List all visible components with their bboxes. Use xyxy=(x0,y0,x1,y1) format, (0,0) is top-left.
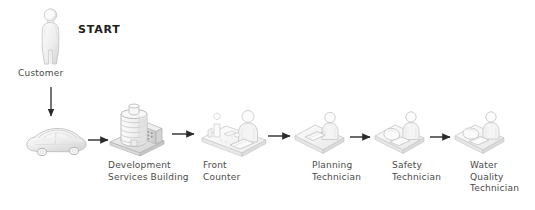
node-label-customer: Customer xyxy=(18,68,88,80)
node-label-safety-technician: Safety Technician xyxy=(392,160,460,183)
office-building-icon xyxy=(104,96,170,158)
technician-desk-icon-planning xyxy=(290,108,352,158)
start-badge: START xyxy=(78,23,121,36)
car-icon xyxy=(22,120,90,162)
person-icon xyxy=(34,6,68,68)
node-label-planning-technician: Planning Technician xyxy=(312,160,380,183)
front-counter-desk-icon xyxy=(196,104,274,160)
node-label-front-counter: Front Counter xyxy=(203,160,273,183)
technician-desk-icon-safety xyxy=(370,108,432,158)
node-label-water-quality-technician: Water Quality Technician xyxy=(470,160,532,195)
process-flow-diagram: Customer START xyxy=(0,0,535,210)
technician-desk-icon-water-quality xyxy=(450,108,512,158)
node-label-development-services-building: Development Services Building xyxy=(108,160,204,183)
